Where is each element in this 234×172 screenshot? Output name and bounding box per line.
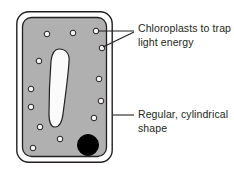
chloroplast [37, 124, 43, 130]
chloroplast [44, 31, 50, 37]
diagram-canvas: Chloroplasts to trap light energy Regula… [0, 0, 234, 172]
chloroplast [57, 136, 63, 142]
chloroplast [98, 98, 104, 104]
chloroplast [28, 104, 34, 110]
nucleus [78, 135, 99, 156]
chloroplast [30, 145, 36, 151]
chloroplast [93, 28, 99, 34]
chloroplast [91, 115, 97, 121]
chloroplast [36, 58, 42, 64]
chloroplast [96, 76, 102, 82]
chloroplast [28, 86, 34, 92]
chloroplast [70, 30, 76, 36]
chloroplast-label: Chloroplasts to trap light energy [138, 22, 234, 49]
shape-label: Regular, cylindrical shape [138, 108, 234, 135]
